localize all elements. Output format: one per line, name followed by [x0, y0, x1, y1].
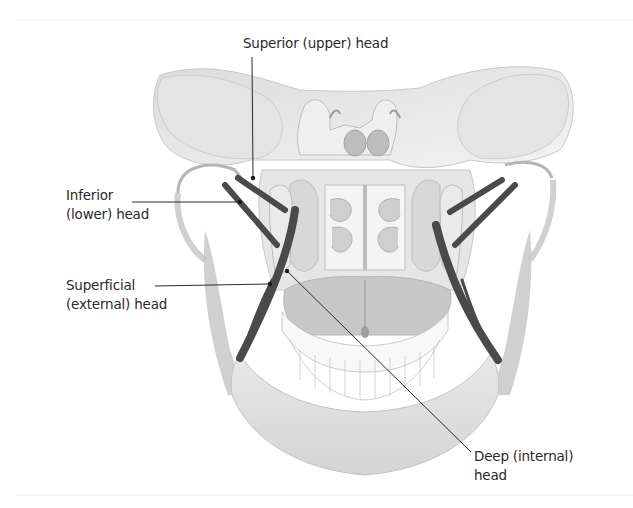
mandible — [231, 355, 498, 475]
label-inferior-line1: Inferior — [66, 186, 149, 205]
label-superior-line1: Superior (upper) head — [243, 35, 388, 51]
label-superior-head: Superior (upper) head — [243, 34, 388, 53]
label-inferior-head: Inferior (lower) head — [66, 186, 149, 224]
label-superficial-head: Superficial (external) head — [66, 276, 167, 314]
cranium — [153, 67, 573, 168]
label-superficial-line1: Superficial — [66, 276, 167, 295]
label-deep-line1: Deep (internal) — [474, 447, 573, 466]
skull-illustration — [0, 0, 633, 508]
label-inferior-line2: (lower) head — [66, 205, 149, 224]
label-superficial-line2: (external) head — [66, 295, 167, 314]
label-deep-head: Deep (internal) head — [474, 447, 573, 485]
label-deep-line2: head — [474, 466, 573, 485]
anatomy-figure: Superior (upper) head Inferior (lower) h… — [0, 0, 633, 508]
palate — [284, 277, 451, 335]
